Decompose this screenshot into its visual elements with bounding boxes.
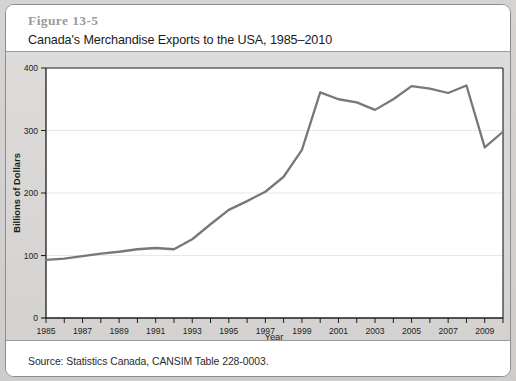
y-tick-label: 300 — [24, 126, 39, 136]
figure-title: Canada's Merchandise Exports to the USA,… — [28, 31, 510, 49]
y-axis: 0100200300400 — [24, 63, 46, 323]
y-axis-title: Billions of Dollars — [11, 153, 22, 233]
chart-area: 0100200300400 19851987198919911993199519… — [6, 52, 510, 340]
y-tick-label: 200 — [24, 188, 39, 198]
figure-panel: Figure 13-5 Canada's Merchandise Exports… — [5, 4, 511, 377]
y-tick-label: 400 — [24, 63, 39, 73]
line-chart: 0100200300400 19851987198919911993199519… — [6, 52, 511, 342]
x-tick-label: 2009 — [475, 326, 494, 336]
x-tick-label: 1999 — [292, 326, 311, 336]
figure-page: Figure 13-5 Canada's Merchandise Exports… — [0, 0, 516, 381]
x-tick-label: 2007 — [439, 326, 458, 336]
x-tick-label: 2001 — [329, 326, 348, 336]
x-tick-label: 1995 — [219, 326, 238, 336]
y-tick-label: 0 — [33, 313, 38, 323]
figure-number: Figure 13-5 — [28, 12, 510, 29]
x-tick-label: 1987 — [73, 326, 92, 336]
x-tick-label: 1991 — [146, 326, 165, 336]
x-tick-label: 1993 — [183, 326, 202, 336]
y-tick-label: 100 — [24, 251, 39, 261]
x-tick-label: 2003 — [365, 326, 384, 336]
figure-footer: Source: Statistics Canada, CANSIM Table … — [6, 340, 510, 376]
source-note: Source: Statistics Canada, CANSIM Table … — [28, 356, 269, 367]
x-tick-label: 1989 — [110, 326, 129, 336]
figure-header: Figure 13-5 Canada's Merchandise Exports… — [6, 5, 510, 52]
x-tick-label: 1985 — [36, 326, 55, 336]
x-tick-label: 2005 — [402, 326, 421, 336]
